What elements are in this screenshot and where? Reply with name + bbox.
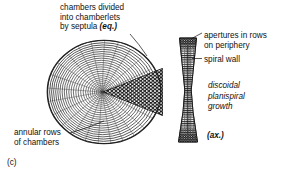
label-axial: (ax.) bbox=[207, 131, 224, 141]
label-annular-rows: annular rows of chambers bbox=[14, 128, 61, 147]
label-chambers-line3: by septula (eq.) bbox=[60, 22, 124, 32]
label-chambers-line2: into chamberlets bbox=[60, 13, 124, 23]
label-chambers-eq: (eq.) bbox=[100, 22, 117, 31]
label-chambers-line1: chambers divided bbox=[60, 3, 124, 13]
label-chambers-line3-prefix: by septula bbox=[60, 22, 100, 31]
label-apertures-line2: on periphery bbox=[204, 41, 267, 51]
label-spiral-wall: spiral wall bbox=[204, 55, 240, 65]
label-growth-line1: discoidal bbox=[208, 81, 245, 92]
figure-part-label: (c) bbox=[7, 158, 17, 168]
label-growth-line2: planispiral bbox=[208, 92, 245, 103]
label-apertures-line1: apertures in rows bbox=[204, 31, 267, 41]
label-annular-line2: of chambers bbox=[14, 138, 61, 148]
label-apertures: apertures in rows on periphery bbox=[204, 31, 267, 50]
label-growth-line3: growth bbox=[208, 102, 245, 113]
label-annular-line1: annular rows bbox=[14, 128, 61, 138]
label-growth-mode: discoidal planispiral growth bbox=[208, 81, 245, 113]
label-chambers-divided: chambers divided into chamberlets by sep… bbox=[60, 3, 124, 32]
